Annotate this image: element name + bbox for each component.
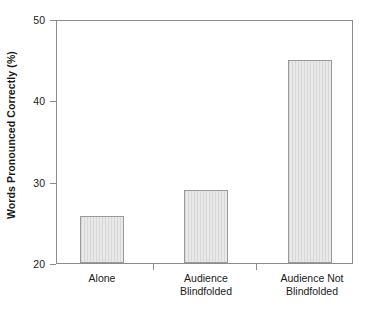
bar-chart-figure: Words Pronounced Correctly (%) 50 40 30 … <box>0 0 371 313</box>
y-tick-mark-20 <box>50 264 56 265</box>
x-divider-tick-1 <box>153 264 154 270</box>
x-tick-label-audience-blindfolded: Audience Blindfolded <box>161 272 251 298</box>
y-tick-label-40: 40 <box>33 96 50 107</box>
y-tick-50: 50 <box>0 20 56 21</box>
y-tick-30: 30 <box>0 183 56 184</box>
y-axis-title: Words Pronounced Correctly (%) <box>0 0 22 270</box>
y-tick-label-30: 30 <box>33 178 50 189</box>
bar-audience-blindfolded <box>184 190 228 263</box>
x-tick-label-audience-blindfolded-line2: Blindfolded <box>161 285 251 298</box>
x-tick-label-alone: Alone <box>57 272 147 285</box>
y-tick-label-20: 20 <box>33 259 50 270</box>
x-divider-tick-2 <box>256 264 257 270</box>
plot-area <box>56 20 353 264</box>
x-tick-label-audience-blindfolded-line1: Audience <box>184 272 228 284</box>
x-tick-label-audience-not-blindfolded: Audience Not Blindfolded <box>263 272 361 298</box>
y-tick-40: 40 <box>0 101 56 102</box>
bar-audience-not-blindfolded <box>288 60 332 263</box>
y-tick-20: 20 <box>0 264 56 265</box>
x-tick-label-alone-line1: Alone <box>89 272 116 284</box>
x-tick-label-audience-not-blindfolded-line2: Blindfolded <box>263 285 361 298</box>
y-tick-label-50: 50 <box>33 15 50 26</box>
x-tick-label-audience-not-blindfolded-line1: Audience Not <box>280 272 343 284</box>
y-axis-title-text: Words Pronounced Correctly (%) <box>5 51 17 219</box>
bar-alone <box>80 216 124 263</box>
